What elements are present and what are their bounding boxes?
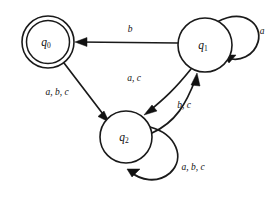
transition-q1-to-q0-line xyxy=(79,42,178,43)
state-q1-label-subscript: 1 xyxy=(204,44,208,53)
state-node-q0[interactable]: q0 xyxy=(22,16,74,68)
state-q2-label-subscript: 2 xyxy=(125,136,129,145)
transition-q1-to-q2-label: a, c xyxy=(127,73,142,83)
transition-q1-to-q0-label: b xyxy=(128,24,133,34)
transition-q2-to-q1-arrowhead xyxy=(191,73,200,86)
transition-q0-to-q2[interactable]: a, b, c xyxy=(45,63,109,122)
state-diagram: b a, b, c a, c b, c a xyxy=(0,0,278,198)
transition-q1-self-loop-label: a xyxy=(260,26,265,36)
transition-q0-to-q2-label: a, b, c xyxy=(45,87,69,97)
state-node-q2[interactable]: q2 xyxy=(100,111,152,163)
state-node-q1[interactable]: q1 xyxy=(178,18,232,72)
transition-q0-to-q2-line xyxy=(64,63,106,118)
transition-q2-self-loop-label: a, b, c xyxy=(181,162,205,172)
transition-q2-to-q1-label: b, c xyxy=(177,100,192,110)
transition-q1-to-q0-arrowhead xyxy=(75,38,87,47)
diagram-canvas: b a, b, c a, c b, c a xyxy=(0,0,278,198)
state-q0-label-subscript: 0 xyxy=(47,41,51,50)
transition-q1-to-q0[interactable]: b xyxy=(75,24,178,46)
